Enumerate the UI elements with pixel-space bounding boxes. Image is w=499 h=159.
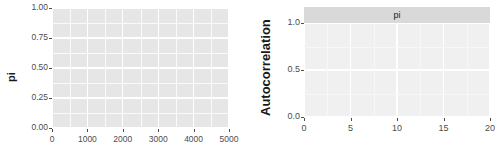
x-tick-mark — [444, 118, 445, 121]
acf-y-axis-title: Autocorrelation — [258, 19, 273, 116]
y-tick-label: 1.00 — [31, 2, 48, 12]
gridline-vertical — [228, 8, 229, 128]
gridline-horizontal-minor — [304, 47, 490, 48]
x-tick-mark — [397, 118, 398, 121]
x-tick-label: 5000 — [199, 134, 259, 144]
acf-facet-strip-label: pi — [393, 10, 400, 20]
x-tick-mark — [158, 129, 159, 132]
gridline-vertical-minor — [141, 8, 142, 128]
gridline-vertical — [489, 23, 490, 117]
x-tick-mark — [194, 129, 195, 132]
x-tick-mark — [229, 129, 230, 132]
gridline-vertical-minor — [105, 8, 106, 128]
x-tick-mark — [490, 118, 491, 121]
y-tick-label: 0.25 — [31, 92, 48, 102]
figure-root: pi 0.000.250.500.751.00 0100020003000400… — [0, 0, 499, 159]
y-tick-label: 1.0 — [287, 17, 300, 27]
x-tick-mark — [304, 118, 305, 121]
gridline-vertical-minor — [374, 23, 375, 117]
y-tick-label: 0.50 — [31, 62, 48, 72]
acf-panel — [304, 23, 490, 117]
gridline-vertical — [304, 23, 305, 117]
gridline-vertical-minor — [467, 23, 468, 117]
gridline-vertical — [350, 23, 351, 117]
x-tick-mark — [52, 129, 53, 132]
gridline-vertical — [193, 8, 194, 128]
x-tick-mark — [123, 129, 124, 132]
acf-facet-strip: pi — [304, 7, 490, 23]
gridline-horizontal-minor — [304, 94, 490, 95]
gridline-vertical — [87, 8, 88, 128]
gridline-vertical-minor — [211, 8, 212, 128]
x-tick-mark — [351, 118, 352, 121]
gridline-vertical — [52, 8, 53, 128]
y-tick-label: 0.0 — [287, 111, 300, 121]
gridline-vertical — [158, 8, 159, 128]
x-tick-label: 20 — [460, 123, 499, 133]
gridline-vertical — [396, 23, 397, 117]
trace-panel — [52, 8, 229, 128]
y-tick-label: 0.5 — [287, 64, 300, 74]
gridline-vertical — [443, 23, 444, 117]
y-tick-label: 0.00 — [31, 122, 48, 132]
gridline-vertical-minor — [420, 23, 421, 117]
y-tick-label: 0.75 — [31, 32, 48, 42]
gridline-vertical-minor — [327, 23, 328, 117]
x-tick-mark — [87, 129, 88, 132]
gridline-vertical-minor — [176, 8, 177, 128]
gridline-vertical — [122, 8, 123, 128]
trace-y-axis-title: pi — [5, 72, 17, 82]
gridline-vertical-minor — [70, 8, 71, 128]
